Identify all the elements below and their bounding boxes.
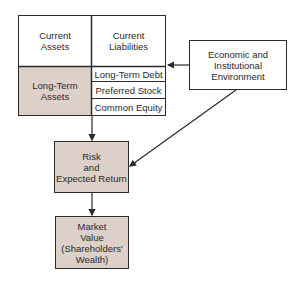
connectors (0, 0, 307, 282)
arrow-environment-to-risk (130, 90, 236, 166)
